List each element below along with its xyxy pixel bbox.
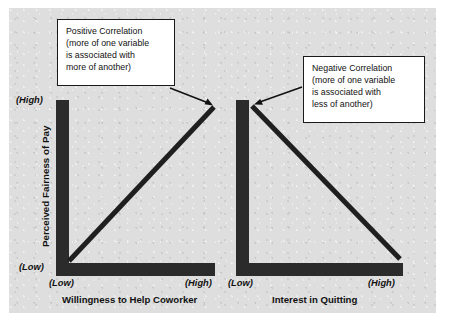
right-chart-x-title: Interest in Quitting (272, 294, 357, 305)
left-chart-x-title: Willingness to Help Coworker (62, 294, 197, 305)
y-axis-low-label: (Low) (19, 262, 44, 272)
right-chart-x-low-label: (Low) (228, 278, 253, 288)
correlation-diagram: Positive Correlation (more of one variab… (0, 0, 450, 327)
right-chart-x-axis (236, 263, 403, 276)
left-chart-x-high-label: (High) (185, 278, 212, 288)
y-axis-title: Perceived Fairness of Pay (40, 126, 51, 247)
y-axis-high-label: (High) (16, 95, 43, 105)
positive-correlation-callout: Positive Correlation (more of one variab… (57, 19, 175, 86)
left-chart-x-low-label: (Low) (49, 278, 74, 288)
negative-correlation-callout: Negative Correlation (more of one variab… (303, 56, 425, 123)
right-chart-y-axis (236, 100, 249, 276)
left-chart-y-axis (56, 100, 69, 276)
left-chart-x-axis (56, 263, 215, 276)
right-chart-x-high-label: (High) (368, 278, 395, 288)
